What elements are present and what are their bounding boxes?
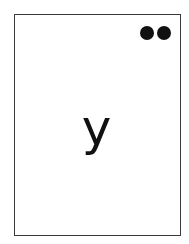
dot-icon bbox=[140, 26, 154, 40]
dot-indicator bbox=[140, 26, 171, 40]
card-letter: y bbox=[15, 103, 180, 153]
dot-icon bbox=[157, 26, 171, 40]
letter-card: y bbox=[14, 14, 181, 236]
